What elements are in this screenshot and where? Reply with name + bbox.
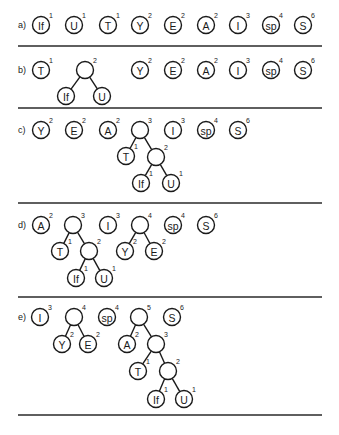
node-circle: [160, 363, 177, 380]
leaf-node-a: A2: [198, 12, 219, 34]
internal-node: 4: [66, 304, 87, 326]
node-weight: 1: [112, 265, 116, 272]
node-symbol: If: [138, 178, 144, 190]
node-symbol: U: [100, 273, 108, 285]
node-symbol: E: [150, 246, 157, 258]
node-symbol: Y: [136, 20, 143, 32]
node-weight: 3: [246, 12, 250, 19]
internal-node: 3: [148, 331, 169, 353]
step-label: b): [18, 65, 26, 75]
node-circle: [66, 309, 83, 326]
leaf-node-i: I3: [230, 57, 251, 79]
leaf-node-e: E2: [66, 117, 87, 139]
node-symbol: I: [172, 125, 175, 137]
node-weight: 1: [84, 265, 88, 272]
node-weight: 2: [148, 12, 152, 19]
internal-node: 3: [132, 117, 153, 139]
leaf-node-e: E2: [165, 57, 186, 79]
node-weight: 2: [176, 358, 180, 365]
node-circle: [65, 217, 82, 234]
huffman-diagram: a)If1U1T1Y2E2A2I3sp4S6b)T12IfUY2E2A2I3sp…: [0, 0, 339, 435]
node-circle: [132, 217, 149, 234]
node-symbol: A: [123, 339, 130, 351]
node-symbol: I: [39, 312, 42, 324]
node-weight: 2: [164, 144, 168, 151]
leaf-node-if: If1: [148, 386, 169, 408]
node-weight: 1: [49, 12, 53, 19]
node-weight: 2: [181, 57, 185, 64]
step-d: d)A23I34sp4S6T12If1U1Y2E2: [18, 212, 322, 298]
node-weight: 2: [96, 331, 100, 338]
leaf-node-s: S6: [198, 212, 219, 234]
node-weight: 4: [148, 212, 152, 219]
node-weight: 5: [147, 304, 151, 311]
leaf-node-i: I3: [100, 212, 121, 234]
tree-edge: [78, 325, 84, 337]
node-symbol: sp: [265, 20, 276, 32]
leaf-node-a: A2: [33, 212, 54, 234]
leaf-node-y: Y2: [117, 238, 138, 260]
node-weight: 2: [49, 117, 53, 124]
internal-node: 4: [132, 212, 153, 234]
node-symbol: T: [105, 20, 112, 32]
node-symbol: If: [73, 273, 79, 285]
node-circle: [148, 336, 165, 353]
leaf-node-u: U1: [66, 12, 87, 34]
leaf-node-if: If: [58, 88, 75, 105]
leaf-node-t: T1: [52, 238, 73, 260]
step-b: b)T12IfUY2E2A2I3sp4S6: [18, 57, 322, 109]
node-weight: 1: [82, 12, 86, 19]
leaf-node-sp: sp4: [263, 57, 284, 79]
node-symbol: A: [104, 125, 111, 137]
tree-edge: [144, 137, 151, 149]
node-weight: 1: [179, 170, 183, 177]
node-weight: 3: [116, 212, 120, 219]
node-weight: 2: [49, 212, 53, 219]
step-label: a): [18, 20, 26, 30]
node-symbol: If: [63, 91, 69, 103]
leaf-node-i: I3: [32, 304, 53, 326]
node-weight: 2: [116, 117, 120, 124]
node-symbol: T: [57, 246, 64, 258]
internal-node: 5: [131, 304, 152, 326]
leaf-node-sp: sp4: [99, 304, 120, 326]
node-symbol: S: [202, 220, 209, 232]
node-symbol: E: [169, 20, 176, 32]
node-symbol: T: [38, 65, 45, 77]
node-symbol: If: [153, 394, 159, 406]
node-symbol: If: [38, 20, 44, 32]
node-symbol: I: [237, 65, 240, 77]
node-symbol: S: [299, 65, 306, 77]
node-weight: 2: [135, 331, 139, 338]
leaf-node-if: If1: [68, 265, 89, 287]
node-weight: 2: [214, 57, 218, 64]
node-weight: 4: [279, 12, 283, 19]
tree-edge: [144, 232, 150, 243]
leaf-node-t: T1: [33, 57, 54, 79]
leaf-node-t: T1: [100, 12, 121, 34]
leaf-node-y: Y2: [132, 57, 153, 79]
leaf-node-s: S6: [164, 304, 185, 326]
tree-edge: [90, 77, 98, 89]
node-weight: 3: [48, 304, 52, 311]
node-symbol: E: [84, 339, 91, 351]
leaf-node-sp: sp4: [165, 212, 186, 234]
node-symbol: E: [70, 125, 77, 137]
node-weight: 1: [116, 12, 120, 19]
node-weight: 3: [181, 117, 185, 124]
step-label: d): [18, 220, 26, 230]
node-symbol: U: [167, 178, 175, 190]
node-symbol: Y: [121, 246, 128, 258]
tree-edge: [77, 232, 84, 244]
node-weight: 6: [311, 12, 315, 19]
node-weight: 3: [81, 212, 85, 219]
leaf-node-a: A2: [198, 57, 219, 79]
node-symbol: U: [98, 91, 106, 103]
leaf-node-u: U: [94, 88, 111, 105]
leaf-node-sp: sp4: [198, 117, 219, 139]
node-weight: 1: [192, 386, 196, 393]
node-weight: 2: [214, 12, 218, 19]
node-symbol: Y: [58, 339, 65, 351]
node-weight: 3: [246, 57, 250, 64]
node-circle: [132, 122, 149, 139]
